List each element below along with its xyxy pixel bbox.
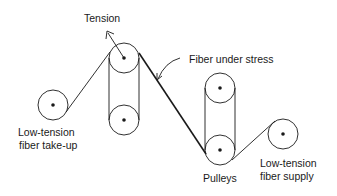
fiber-under-stress — [139, 53, 206, 154]
fiber-under-stress-label: Fiber under stress — [189, 53, 274, 65]
tension-arrowhead-icon — [106, 31, 114, 39]
hub-dot — [122, 56, 126, 60]
fiber-segment-supply — [232, 121, 275, 160]
hub-dot — [281, 132, 285, 136]
hub-dot — [51, 103, 55, 107]
takeup-label-line2: fiber take-up — [19, 139, 77, 151]
hub-dot — [218, 148, 222, 152]
supply-label-line2: fiber supply — [260, 170, 314, 182]
tension-arrow — [108, 33, 124, 58]
hub-dot — [218, 86, 222, 90]
supply-label-line1: Low-tension — [260, 157, 317, 169]
tension-label: Tension — [84, 12, 120, 24]
hub-dot — [122, 118, 126, 122]
pulleys-label: Pulleys — [203, 172, 237, 184]
stress-leader-line — [158, 58, 180, 79]
fiber-segment-takeup — [66, 52, 110, 112]
takeup-label-line1: Low-tension — [18, 126, 75, 138]
